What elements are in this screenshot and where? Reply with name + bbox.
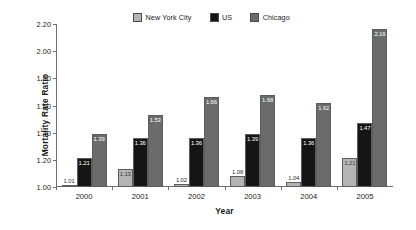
- bar-us-2004: 1.36: [301, 138, 316, 187]
- legend-label-us: US: [222, 14, 232, 21]
- y-axis-title: Mortality Rate Ratio: [40, 74, 50, 157]
- bar-value-label: 1.08: [232, 170, 243, 176]
- bar-chicago-2002: 1.66: [204, 97, 219, 187]
- bar-nyc-2003: 1.08: [230, 176, 245, 187]
- x-axis-tick-mark: [112, 187, 113, 190]
- x-axis-tick-mark: [225, 187, 226, 190]
- bar-group-2000: 1.011.211.392000: [56, 24, 112, 187]
- bar-nyc-2004: 1.04: [286, 182, 301, 187]
- x-axis-tick-label-2004: 2004: [281, 192, 337, 201]
- legend-swatch-us: [210, 13, 219, 22]
- x-axis-tick-label-2000: 2000: [56, 192, 112, 201]
- plot-area: 1.001.201.401.601.802.002.20 1.011.211.3…: [56, 24, 393, 187]
- bar-group-2003: 1.081.391.682003: [225, 24, 281, 187]
- bar-value-label: 1.36: [135, 141, 146, 147]
- bar-value-label: 1.01: [64, 179, 75, 185]
- x-axis-tick-mark: [56, 187, 57, 190]
- bar-value-label: 1.04: [288, 176, 299, 182]
- x-axis-tick-mark: [168, 187, 169, 190]
- legend-label-new-york-city: New York City: [146, 14, 192, 21]
- bar-us-2003: 1.39: [245, 134, 260, 187]
- bar-value-label: 1.36: [303, 141, 314, 147]
- bar-value-label: 1.47: [359, 126, 370, 132]
- bar-nyc-2005: 1.21: [342, 158, 357, 187]
- x-axis-tick-label-2002: 2002: [168, 192, 224, 201]
- bar-value-label: 1.21: [79, 161, 90, 167]
- bar-value-label: 1.02: [176, 178, 187, 184]
- bar-value-label: 1.39: [247, 137, 258, 143]
- bar-chicago-2005: 2.16: [372, 29, 387, 187]
- bar-us-2005: 1.47: [357, 123, 372, 187]
- bar-nyc-2000: 1.01: [62, 185, 77, 187]
- bar-value-label: 1.21: [344, 161, 355, 167]
- bar-value-label: 1.62: [318, 106, 329, 112]
- bar-value-label: 1.66: [206, 100, 217, 106]
- bar-group-2001: 1.131.361.532001: [112, 24, 168, 187]
- x-axis-tick-label-2003: 2003: [225, 192, 281, 201]
- bar-groups: 1.011.211.3920001.131.361.5320011.021.36…: [56, 24, 393, 187]
- bar-chicago-2004: 1.62: [316, 103, 331, 187]
- x-axis-tick-mark: [337, 187, 338, 190]
- chart-legend: New York City US Chicago: [133, 13, 290, 22]
- legend-label-chicago: Chicago: [263, 14, 290, 21]
- legend-item-new-york-city: New York City: [133, 13, 192, 22]
- bar-value-label: 1.39: [94, 137, 105, 143]
- legend-item-chicago: Chicago: [250, 13, 290, 22]
- x-axis-tick-label-2005: 2005: [337, 192, 393, 201]
- bar-nyc-2002: 1.02: [174, 184, 189, 187]
- bar-group-2004: 1.041.361.622004: [281, 24, 337, 187]
- bar-us-2001: 1.36: [133, 138, 148, 187]
- legend-swatch-new-york-city: [133, 13, 142, 22]
- bar-value-label: 1.13: [120, 172, 131, 178]
- bar-value-label: 1.53: [150, 118, 161, 124]
- bar-chicago-2001: 1.53: [148, 115, 163, 187]
- bar-value-label: 1.36: [191, 141, 202, 147]
- bar-us-2002: 1.36: [189, 138, 204, 187]
- mortality-rate-ratio-bar-chart: New York City US Chicago Mortality Rate …: [0, 0, 416, 230]
- legend-swatch-chicago: [250, 13, 259, 22]
- bar-nyc-2001: 1.13: [118, 169, 133, 187]
- bar-value-label: 1.68: [262, 98, 273, 104]
- bar-chicago-2000: 1.39: [92, 134, 107, 187]
- bar-group-2005: 1.211.472.162005: [337, 24, 393, 187]
- bar-us-2000: 1.21: [77, 158, 92, 187]
- bar-group-2002: 1.021.361.662002: [168, 24, 224, 187]
- x-axis-tick-label-2001: 2001: [112, 192, 168, 201]
- bar-chicago-2003: 1.68: [260, 95, 275, 187]
- x-axis-tick-mark: [281, 187, 282, 190]
- bar-value-label: 2.16: [374, 32, 385, 38]
- legend-item-us: US: [210, 13, 233, 22]
- x-axis-title: Year: [56, 206, 393, 216]
